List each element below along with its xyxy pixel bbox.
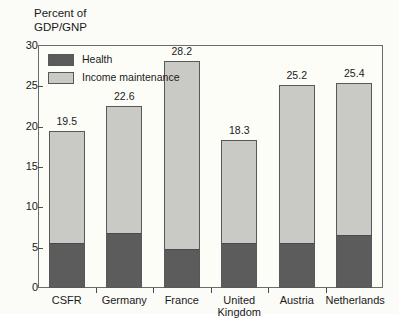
bar-segment-health xyxy=(280,243,314,287)
bar-segment-income-maintenance xyxy=(49,131,85,288)
x-axis-label: France xyxy=(153,294,211,306)
y-tick-mark-20 xyxy=(38,127,43,128)
bar-group: 18.3 xyxy=(221,140,257,288)
y-tick-mark-5 xyxy=(38,248,43,249)
y-tick-mark-15 xyxy=(38,167,43,168)
bar-value-label: 18.3 xyxy=(221,125,257,136)
bar-segment-income-maintenance xyxy=(221,140,257,288)
bar-value-label: 25.4 xyxy=(336,68,372,79)
bar-group: 22.6 xyxy=(106,106,142,288)
x-axis-label: Austria xyxy=(268,294,326,306)
legend-label-income-maintenance: Income maintenance xyxy=(82,72,179,83)
bar-segment-income-maintenance xyxy=(164,61,200,288)
bar-group: 28.2 xyxy=(164,61,200,288)
bar-group: 25.2 xyxy=(279,85,315,288)
y-tick-mark-10 xyxy=(38,207,43,208)
bar-segment-health xyxy=(50,243,84,287)
bar-segment-health xyxy=(165,249,199,287)
chart-legend: Health Income maintenance xyxy=(48,52,179,88)
bar-segment-income-maintenance xyxy=(336,83,372,288)
bar-segment-health xyxy=(107,233,141,287)
x-axis-label: United Kingdom xyxy=(211,294,269,318)
x-tick-mark xyxy=(153,288,154,293)
x-tick-mark xyxy=(268,288,269,293)
bar-segment-health xyxy=(337,235,371,287)
bar-segment-income-maintenance xyxy=(106,106,142,288)
bar-value-label: 25.2 xyxy=(279,70,315,81)
legend-item-income-maintenance: Income maintenance xyxy=(48,70,179,85)
legend-label-health: Health xyxy=(82,54,112,65)
x-tick-mark xyxy=(326,288,327,293)
bar-value-label: 19.5 xyxy=(49,116,85,127)
bar-group: 25.4 xyxy=(336,83,372,288)
bar-segment-income-maintenance xyxy=(279,85,315,288)
x-axis-label: CSFR xyxy=(38,294,96,306)
legend-swatch-income-maintenance xyxy=(48,72,74,84)
y-tick-mark-25 xyxy=(38,86,43,87)
legend-item-health: Health xyxy=(48,52,179,67)
x-axis-label: Germany xyxy=(96,294,154,306)
x-axis-label: Netherlands xyxy=(326,294,384,306)
legend-swatch-health xyxy=(48,54,74,66)
x-tick-mark xyxy=(96,288,97,293)
x-tick-mark xyxy=(211,288,212,293)
bar-value-label: 22.6 xyxy=(106,91,142,102)
bar-segment-health xyxy=(222,243,256,287)
bar-group: 19.5 xyxy=(49,131,85,288)
